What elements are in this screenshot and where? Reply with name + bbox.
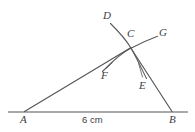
point-label-F: F <box>101 70 108 81</box>
geometry-figure: A B C D E F G 6 cm <box>0 0 195 132</box>
leader-tick-F <box>107 63 113 69</box>
arc-FG <box>103 36 158 71</box>
point-label-A: A <box>20 114 27 125</box>
base-length-label: 6 cm <box>82 115 103 125</box>
figure-canvas <box>0 0 195 132</box>
point-label-E: E <box>139 80 146 91</box>
segment-AC <box>25 48 132 112</box>
point-label-B: B <box>169 114 176 125</box>
point-label-C: C <box>127 28 134 39</box>
point-label-D: D <box>103 10 111 21</box>
segment-CB <box>131 48 173 112</box>
point-label-G: G <box>159 27 167 38</box>
